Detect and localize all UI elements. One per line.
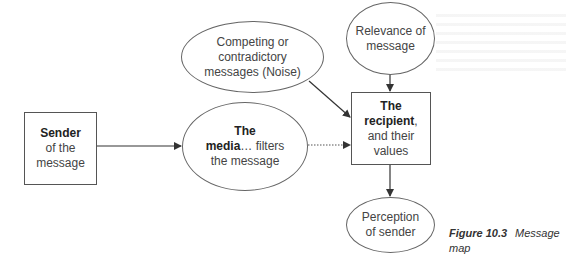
media-label-bold: media <box>206 139 241 153</box>
figure-title-cont: map <box>449 241 560 256</box>
recipient-label-line: and their <box>364 129 417 144</box>
media-label-rest: … filters <box>240 139 284 153</box>
sender-label-bold: Sender <box>36 126 85 141</box>
noise-label-line: contradictory <box>204 50 301 65</box>
relevance-node: Relevance of message <box>346 2 435 75</box>
recipient-label-rest: , <box>414 114 417 128</box>
figure-title: Message <box>515 227 560 239</box>
relevance-label-line: message <box>355 39 425 54</box>
recipient-node: The recipient, and their values <box>351 92 431 165</box>
recipient-label-bold: The <box>364 99 417 114</box>
figure-number: Figure 10.3 <box>449 227 507 239</box>
recipient-label-bold: recipient <box>364 114 414 128</box>
media-node: The media… filters the message <box>182 102 308 191</box>
media-label-line: the message <box>206 154 285 169</box>
noise-label-line: messages (Noise) <box>204 65 301 80</box>
noise-label-line: Competing or <box>204 35 301 50</box>
media-label-bold: The <box>206 124 285 139</box>
sender-label-line: of the <box>36 141 85 156</box>
perception-node: Perception of sender <box>346 197 435 253</box>
perception-label-line: Perception <box>362 210 419 225</box>
recipient-label-line: values <box>364 144 417 159</box>
sender-node: Sender of the message <box>24 112 97 185</box>
figure-caption: Figure 10.3Message map <box>449 226 560 256</box>
perception-label-line: of sender <box>362 225 419 240</box>
noise-node: Competing or contradictory messages (Noi… <box>181 21 324 93</box>
relevance-label-line: Relevance of <box>355 24 425 39</box>
edge-noise-recipient <box>309 81 350 117</box>
sender-label-line: message <box>36 156 85 171</box>
